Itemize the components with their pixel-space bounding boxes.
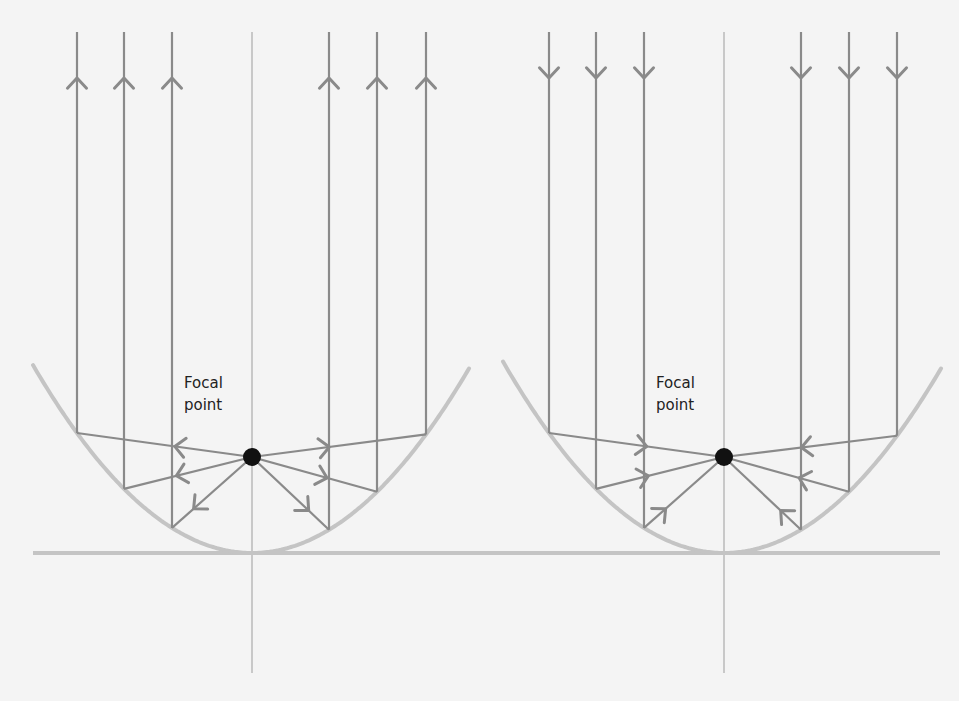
focal-point-label-right: Focal point (656, 372, 695, 416)
reflected-ray (77, 433, 252, 457)
reflected-ray (252, 434, 426, 457)
parabolic-reflector-diagram (0, 0, 959, 701)
focal-point-label-left: Focal point (184, 372, 223, 416)
focal-point-dot-receiving (715, 448, 733, 466)
focal-point-dot-transmitting (243, 448, 261, 466)
